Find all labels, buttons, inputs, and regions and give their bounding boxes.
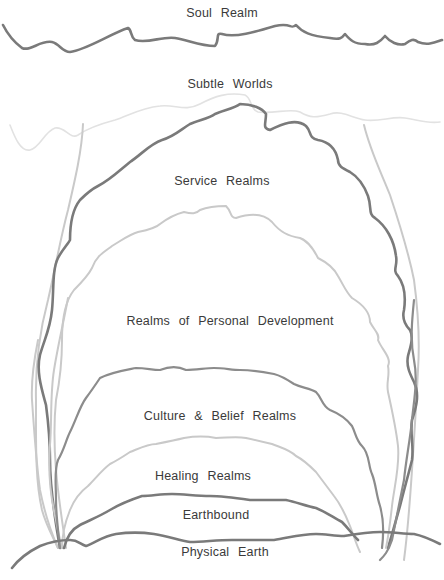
label-soul-realm: Soul Realm: [186, 6, 258, 20]
label-physical-earth: Physical Earth: [181, 545, 269, 559]
label-subtle-worlds: Subtle Worlds: [187, 77, 272, 91]
label-culture-belief: Culture & Belief Realms: [144, 409, 296, 423]
soul-realm-boundary: [3, 25, 442, 52]
subtle-worlds-boundary: [10, 94, 440, 150]
label-service-realms: Service Realms: [174, 174, 269, 188]
label-earthbound: Earthbound: [183, 508, 250, 522]
inner-left-strand: [49, 298, 68, 548]
right-mid-strand: [380, 300, 416, 560]
label-personal-development: Realms of Personal Development: [126, 314, 333, 328]
label-healing-realms: Healing Realms: [155, 469, 251, 483]
